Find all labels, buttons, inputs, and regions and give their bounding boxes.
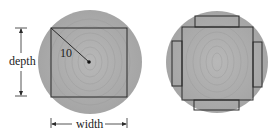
arrow-up-icon [19, 28, 23, 33]
radius-label: 10 [60, 46, 72, 60]
arrow-left-icon [51, 122, 56, 126]
width-label: width [76, 117, 103, 131]
depth-label: depth [9, 54, 36, 68]
right-log-cross-section [166, 11, 268, 113]
arrow-down-icon [19, 91, 23, 96]
arrow-right-icon [122, 122, 127, 126]
center-point [87, 60, 91, 64]
diagram-canvas: 10 depth width [0, 0, 274, 136]
left-log-cross-section: 10 depth width [9, 10, 142, 131]
